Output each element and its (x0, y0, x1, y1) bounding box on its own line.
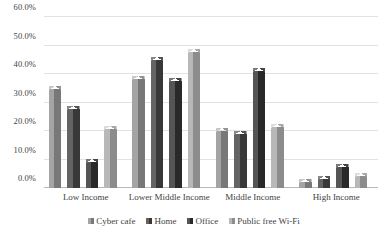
bar-face-right (342, 167, 349, 188)
x-axis: Low IncomeLower Middle IncomeMiddle Inco… (44, 192, 378, 208)
legend-item[interactable]: Home (146, 216, 176, 226)
bar-face-right (240, 134, 247, 188)
bar-group (295, 17, 379, 188)
bar-slot (151, 17, 164, 188)
bar-slot (86, 17, 99, 188)
y-axis-tick-label: 40.0% (14, 59, 36, 69)
bar-face-right (221, 131, 228, 188)
bar-face-top (355, 173, 368, 177)
legend-swatch-icon (88, 218, 94, 224)
bar-face-top (132, 76, 145, 80)
legend-item[interactable]: Office (187, 216, 218, 226)
bar-face-top (271, 124, 284, 128)
y-axis-tick-label: 30.0% (14, 88, 36, 98)
bar[interactable] (169, 78, 182, 188)
bar-face-top (299, 179, 312, 183)
bar-chart: 0.0%10.0%20.0%30.0%40.0%50.0%60.0% Low I… (0, 0, 388, 240)
legend-item-label: Public free Wi-Fi (237, 216, 299, 226)
bar-face-top (336, 164, 349, 168)
y-axis: 0.0%10.0%20.0%30.0%40.0%50.0%60.0% (0, 17, 40, 188)
bar-face-right (73, 109, 80, 188)
bar-slot (67, 17, 80, 188)
legend-item[interactable]: Cyber cafe (88, 216, 135, 226)
bar-face-top (169, 78, 182, 82)
bar-face-top (67, 106, 80, 110)
bar-slot (336, 17, 349, 188)
bar-face-top (104, 126, 117, 130)
bar-face-right (193, 52, 200, 188)
bar-slot (216, 17, 229, 188)
y-axis-tick-label: 20.0% (14, 116, 36, 126)
x-axis-tick-label: Lower Middle Income (128, 192, 212, 202)
y-axis-tick-label: 0.0% (18, 173, 36, 183)
chart-legend: Cyber cafeHomeOfficePublic free Wi-Fi (0, 216, 388, 226)
bar-group (44, 17, 128, 188)
bar-group (128, 17, 212, 188)
bar-face-top (49, 86, 62, 90)
bar-slot (253, 17, 266, 188)
legend-item-label: Office (195, 216, 218, 226)
bar[interactable] (188, 49, 201, 188)
bar-face-right (138, 79, 145, 188)
bar[interactable] (86, 159, 99, 188)
bar-group (211, 17, 295, 188)
bar-slot (132, 17, 145, 188)
bar-face-right (258, 71, 265, 188)
legend-swatch-right (91, 218, 94, 224)
bar[interactable] (216, 128, 229, 188)
bar-slot (188, 17, 201, 188)
y-axis-tick-label: 10.0% (14, 145, 36, 155)
legend-swatch-icon (229, 218, 235, 224)
bar-slot (299, 17, 312, 188)
bars-layer (44, 17, 378, 188)
bar-slot (271, 17, 284, 188)
bar-face-right (91, 162, 98, 188)
bar-face-right (175, 81, 182, 188)
x-axis-tick-label: High Income (295, 192, 379, 202)
legend-swatch-right (232, 218, 235, 224)
bar-slot (169, 17, 182, 188)
bar-face-top (234, 131, 247, 135)
bar[interactable] (132, 76, 145, 188)
legend-swatch-icon (146, 218, 152, 224)
bar[interactable] (49, 86, 62, 188)
bar[interactable] (336, 164, 349, 188)
bar-face-top (253, 68, 266, 72)
bar-face-right (323, 179, 330, 188)
legend-item-label: Home (154, 216, 176, 226)
legend-item[interactable]: Public free Wi-Fi (229, 216, 299, 226)
bar-face-top (318, 176, 331, 180)
x-axis-tick-label: Low Income (44, 192, 128, 202)
bar-slot (49, 17, 62, 188)
bar[interactable] (253, 68, 266, 188)
bar-slot (318, 17, 331, 188)
bar-face-top (188, 49, 201, 53)
bar[interactable] (151, 57, 164, 188)
x-axis-tick-label: Middle Income (211, 192, 295, 202)
bar[interactable] (318, 176, 331, 188)
legend-item-label: Cyber cafe (96, 216, 135, 226)
bar-face-right (277, 127, 284, 188)
legend-swatch-right (149, 218, 152, 224)
legend-swatch-right (190, 218, 193, 224)
bar-face-top (86, 159, 99, 163)
bar[interactable] (234, 131, 247, 188)
bar-face-right (360, 176, 367, 188)
y-axis-tick-label: 50.0% (14, 31, 36, 41)
legend-swatch-icon (187, 218, 193, 224)
bar[interactable] (299, 179, 312, 188)
bar[interactable] (104, 126, 117, 188)
bar[interactable] (67, 106, 80, 188)
bar-face-right (110, 129, 117, 188)
bar-face-top (216, 128, 229, 132)
bar-slot (234, 17, 247, 188)
bar-face-right (54, 89, 61, 188)
bar[interactable] (271, 124, 284, 188)
y-axis-tick-label: 60.0% (14, 2, 36, 12)
bar-face-top (151, 57, 164, 61)
bar-face-right (156, 60, 163, 188)
bar-slot (355, 17, 368, 188)
bar-slot (104, 17, 117, 188)
bar[interactable] (355, 173, 368, 188)
